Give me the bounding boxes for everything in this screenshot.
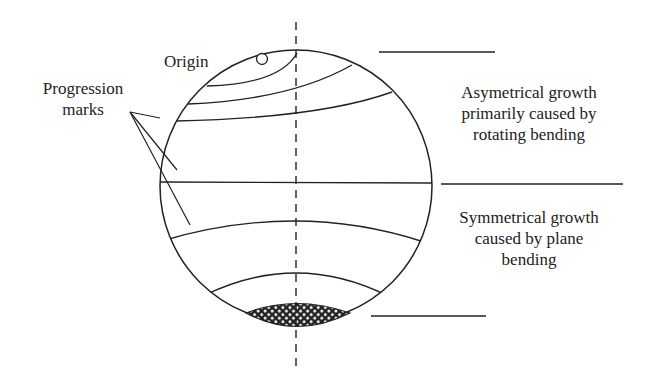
progression-marks-label: Progression marks bbox=[28, 78, 138, 120]
leader-line-3 bbox=[130, 112, 190, 225]
progression-arc-4 bbox=[158, 221, 424, 242]
origin-marker bbox=[257, 54, 268, 65]
final-fracture-zone bbox=[246, 304, 350, 327]
progression-arc-2 bbox=[188, 65, 352, 104]
origin-label: Origin bbox=[164, 51, 208, 72]
fracture-surface-diagram bbox=[0, 0, 652, 379]
progression-arc-3 bbox=[176, 92, 392, 121]
symmetrical-growth-label: Symmetrical growth caused by plane bendi… bbox=[440, 207, 618, 270]
asymmetrical-growth-label: Asymetrical growth primarily caused by r… bbox=[440, 82, 618, 145]
leader-line-2 bbox=[130, 112, 177, 170]
